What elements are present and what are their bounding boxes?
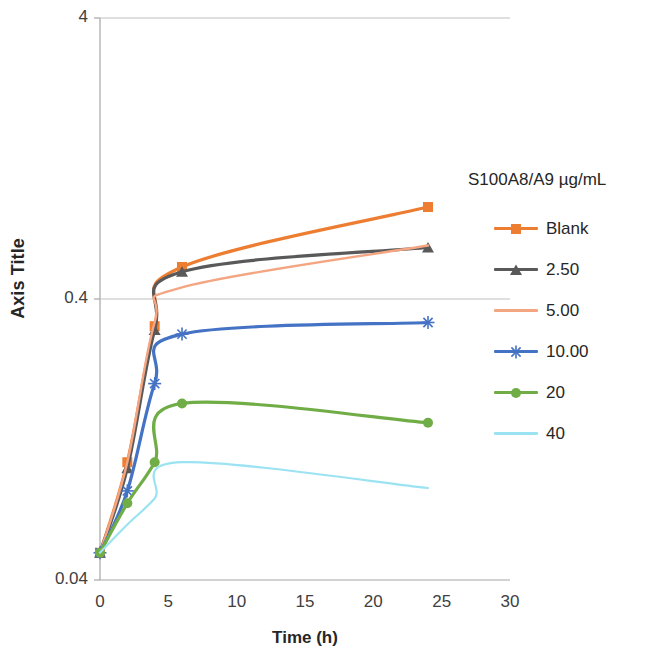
circle-marker — [122, 498, 132, 508]
legend-items: Blank2.505.0010.002040 — [468, 208, 653, 454]
legend-item-5-00[interactable]: 5.00 — [468, 290, 653, 331]
legend-swatch — [494, 261, 538, 279]
chart-container: Axis Title 0.040.44051015202530 Time (h)… — [0, 0, 653, 660]
legend-label: 2.50 — [546, 260, 579, 280]
square-marker — [423, 202, 433, 212]
legend-marker-triangle-icon — [494, 261, 538, 279]
y-tick-label: 0.04 — [18, 569, 88, 589]
legend-swatch — [494, 384, 538, 402]
x-tick-label: 15 — [285, 592, 325, 612]
x-axis-title: Time (h) — [100, 628, 510, 648]
legend-title: S100A8/A9 µg/mL — [468, 170, 653, 190]
circle-marker — [150, 457, 160, 467]
legend: S100A8/A9 µg/mL Blank2.505.0010.002040 — [468, 170, 653, 454]
x-tick-label: 30 — [490, 592, 530, 612]
legend-swatch — [494, 425, 538, 443]
square-marker — [511, 224, 521, 234]
legend-item-20[interactable]: 20 — [468, 372, 653, 413]
series-line — [100, 462, 428, 553]
series-2-50 — [94, 242, 434, 558]
legend-label: 5.00 — [546, 301, 579, 321]
legend-item-blank[interactable]: Blank — [468, 208, 653, 249]
legend-label: Blank — [546, 219, 589, 239]
x-tick-label: 10 — [217, 592, 257, 612]
legend-label: 10.00 — [546, 342, 589, 362]
x-tick-label: 5 — [148, 592, 188, 612]
circle-marker — [511, 388, 521, 398]
circle-marker — [177, 398, 187, 408]
legend-label: 20 — [546, 383, 565, 403]
y-tick-label: 4 — [18, 7, 88, 27]
legend-line — [494, 309, 538, 312]
x-tick-label: 25 — [422, 592, 462, 612]
legend-marker-square-icon — [494, 220, 538, 238]
circle-marker — [423, 418, 433, 428]
series-10-00 — [94, 316, 435, 559]
legend-swatch — [494, 343, 538, 361]
legend-marker-circle-icon — [494, 384, 538, 402]
x-tick-label: 0 — [80, 592, 120, 612]
series-40 — [100, 462, 428, 553]
legend-label: 40 — [546, 424, 565, 444]
triangle-marker — [510, 264, 522, 275]
legend-swatch — [494, 302, 538, 320]
legend-line — [494, 432, 538, 435]
legend-item-10-00[interactable]: 10.00 — [468, 331, 653, 372]
legend-swatch — [494, 220, 538, 238]
legend-item-2-50[interactable]: 2.50 — [468, 249, 653, 290]
series-line — [100, 402, 428, 553]
legend-item-40[interactable]: 40 — [468, 413, 653, 454]
legend-marker-asterisk-icon — [494, 343, 538, 361]
x-tick-label: 20 — [353, 592, 393, 612]
y-tick-label: 0.4 — [18, 288, 88, 308]
